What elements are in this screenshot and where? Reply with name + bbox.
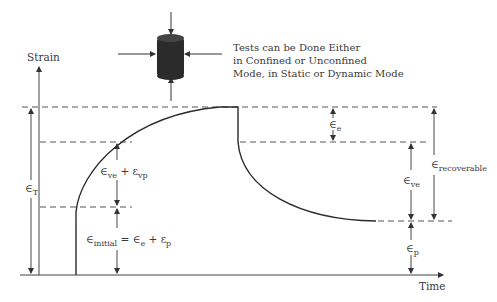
note-line-3: Mode, in Static or Dynamic Mode: [233, 67, 404, 80]
test-mode-note: Tests can be Done Either in Confined or …: [233, 41, 404, 80]
initial-strain-label: ∈initial = ∈e + εp: [86, 234, 171, 248]
note-line-1: Tests can be Done Either: [233, 41, 404, 54]
viscoelastic-viscoplastic-label: ∈ve + εvp: [100, 166, 148, 180]
viscoelastic-strain-label: ∈ve: [403, 175, 420, 189]
reference-lines: [22, 107, 452, 221]
x-axis-label: Time: [419, 281, 446, 292]
y-axis-label: Strain: [27, 52, 60, 63]
note-line-2: in Confined or Unconfined: [233, 54, 404, 67]
elastic-strain-label: ∈e: [329, 119, 342, 133]
recoverable-strain-label: ∈recoverable: [431, 159, 487, 173]
specimen-icon: [118, 12, 222, 101]
plastic-strain-label: ∈p: [406, 243, 419, 257]
total-strain-label: ∈T: [25, 183, 38, 197]
